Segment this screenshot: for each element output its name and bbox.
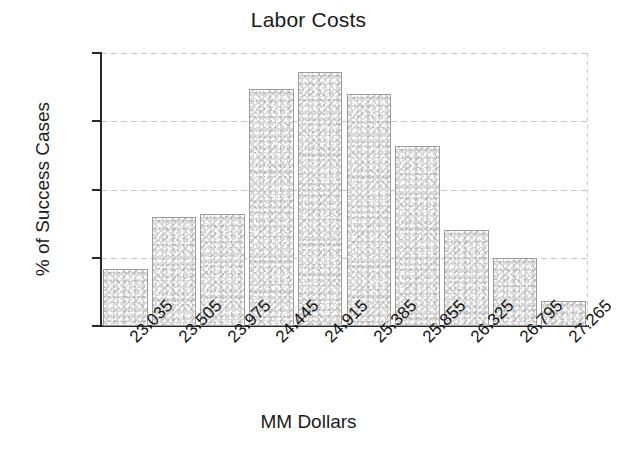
y-tick-mark-10 (92, 189, 102, 191)
x-axis-title: MM Dollars (0, 411, 617, 433)
y-axis-title: % of Success Cases (32, 74, 54, 304)
gridline-10 (101, 190, 588, 191)
gridline-20 (101, 53, 588, 54)
y-tick-mark-20 (92, 52, 102, 54)
y-tick-mark-0 (92, 325, 102, 327)
y-tick-mark-15 (92, 120, 102, 122)
chart-figure: Labor Costs 05101520 23.03523.50523.9752… (0, 0, 617, 454)
chart-title: Labor Costs (0, 8, 617, 32)
y-tick-mark-5 (92, 257, 102, 259)
gridline-15 (101, 121, 588, 122)
